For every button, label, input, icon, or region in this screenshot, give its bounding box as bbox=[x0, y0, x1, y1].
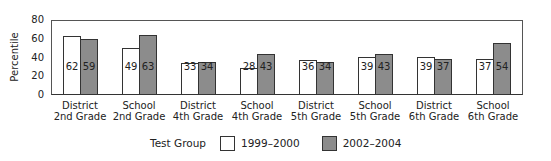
legend-item-series-2: 2002–2004 bbox=[322, 136, 402, 151]
bar-value-label: 63 bbox=[140, 62, 156, 72]
y-axis-label: Percentile bbox=[9, 27, 20, 87]
legend-swatch-gray bbox=[322, 136, 337, 151]
bar-1999-2000: 33 bbox=[181, 63, 199, 94]
y-tick-label: 20 bbox=[24, 71, 44, 81]
bar-value-label: 43 bbox=[258, 62, 274, 72]
bar-value-label: 39 bbox=[418, 62, 434, 72]
bar-value-label: 62 bbox=[64, 62, 80, 72]
legend-title: Test Group bbox=[150, 137, 206, 149]
bar-2002-2004: 37 bbox=[434, 59, 452, 94]
legend-swatch-white bbox=[220, 136, 235, 151]
bar-1999-2000: 37 bbox=[476, 59, 494, 94]
legend-item-series-1: 1999–2000 bbox=[220, 136, 300, 151]
bar-value-label: 59 bbox=[81, 62, 97, 72]
legend-label: 2002–2004 bbox=[343, 137, 402, 149]
bar-value-label: 34 bbox=[199, 62, 215, 72]
bar-value-label: 33 bbox=[182, 62, 198, 72]
plot-area: 62594963333428433634394339373754 bbox=[51, 20, 523, 95]
y-tick-label: 0 bbox=[24, 90, 44, 100]
y-tick-label: 40 bbox=[24, 53, 44, 63]
bar-value-label: 28 bbox=[241, 62, 257, 72]
bar-value-label: 36 bbox=[300, 62, 316, 72]
bar-value-label: 37 bbox=[477, 62, 493, 72]
bar-value-label: 54 bbox=[494, 62, 510, 72]
legend: Test Group 1999–2000 2002–2004 bbox=[150, 133, 423, 153]
bar-2002-2004: 63 bbox=[139, 35, 157, 94]
bar-1999-2000: 39 bbox=[417, 57, 435, 94]
bar-value-label: 37 bbox=[435, 62, 451, 72]
bar-1999-2000: 62 bbox=[63, 36, 81, 94]
bar-1999-2000: 39 bbox=[358, 57, 376, 94]
bar-value-label: 39 bbox=[359, 62, 375, 72]
bar-2002-2004: 43 bbox=[257, 54, 275, 94]
bar-1999-2000: 28 bbox=[240, 68, 258, 94]
bar-value-label: 43 bbox=[376, 62, 392, 72]
y-tick-label: 60 bbox=[24, 34, 44, 44]
bar-2002-2004: 34 bbox=[198, 62, 216, 94]
bar-2002-2004: 54 bbox=[493, 43, 511, 94]
bar-1999-2000: 36 bbox=[299, 60, 317, 94]
bar-1999-2000: 49 bbox=[122, 48, 140, 94]
x-tick-label: School6th Grade bbox=[458, 100, 528, 122]
bar-2002-2004: 43 bbox=[375, 54, 393, 94]
y-tick-label: 80 bbox=[24, 15, 44, 25]
bar-value-label: 34 bbox=[317, 62, 333, 72]
bar-value-label: 49 bbox=[123, 62, 139, 72]
bar-2002-2004: 34 bbox=[316, 62, 334, 94]
bar-2002-2004: 59 bbox=[80, 39, 98, 94]
legend-label: 1999–2000 bbox=[241, 137, 300, 149]
